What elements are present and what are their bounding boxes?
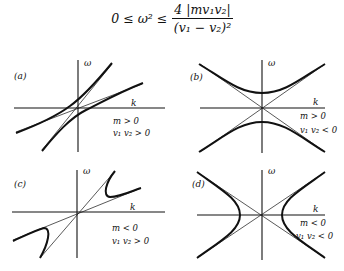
- panel-label-c: (c): [14, 179, 27, 189]
- k-axis-label: k: [313, 204, 318, 214]
- k-axis-label: k: [313, 97, 318, 107]
- condition-m: m < 0: [112, 223, 139, 233]
- omega-axis-label: ω: [84, 58, 92, 68]
- condition-v: v₁ v₂ > 0: [112, 236, 150, 246]
- panel-b: [199, 60, 325, 153]
- condition-m: m < 0: [300, 218, 327, 228]
- condition-v: v₁ v₂ > 0: [113, 128, 151, 138]
- panel-label-a: (a): [14, 71, 27, 81]
- k-axis-label: k: [130, 202, 135, 212]
- omega-axis-label: ω: [83, 166, 91, 176]
- dispersion-diagrams: (a) ω k m > 0 v₁ v₂ > 0 (b) ω k m > 0 v₁…: [0, 0, 344, 271]
- k-axis-label: k: [131, 98, 136, 108]
- panel-d: [197, 170, 325, 260]
- condition-m: m > 0: [113, 116, 140, 126]
- condition-m: m > 0: [300, 111, 327, 121]
- panel-label-d: (d): [192, 179, 205, 189]
- condition-v: v₁ v₂ < 0: [300, 125, 338, 135]
- dispersion-branch: [106, 171, 141, 197]
- omega-axis-label: ω: [268, 58, 276, 68]
- condition-v: v₁ v₂ < 0: [296, 231, 334, 241]
- omega-axis-label: ω: [268, 166, 276, 176]
- panel-label-b: (b): [190, 72, 203, 82]
- dispersion-branch: [13, 228, 48, 258]
- panel-a: [14, 60, 165, 152]
